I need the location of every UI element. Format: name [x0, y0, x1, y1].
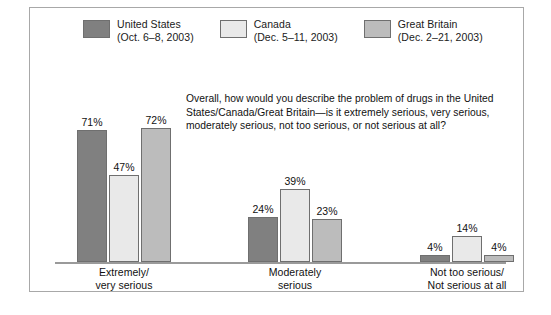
legend-date-great-britain: (Dec. 2–21, 2003): [398, 31, 483, 44]
legend-swatch-united-states: [83, 20, 110, 38]
bar-moderately-canada: [280, 189, 310, 262]
legend-item-united-states: United States (Oct. 6–8, 2003): [83, 18, 194, 43]
legend-swatch-canada: [220, 20, 247, 38]
legend-date-canada: (Dec. 5–11, 2003): [254, 31, 338, 44]
bar-nottoo-united-states: [420, 255, 450, 262]
bar-moderately-great-britain: [312, 219, 342, 262]
category-label-extremely-very-serious: Extremely/ very serious: [49, 266, 199, 291]
category-label-line-1: Moderately: [220, 266, 370, 279]
legend-text-great-britain: Great Britain (Dec. 2–21, 2003): [398, 18, 483, 43]
bar-value-moderately-united-states: 24%: [242, 203, 284, 215]
bar-value-nottoo-united-states: 4%: [414, 241, 456, 253]
bar-nottoo-great-britain: [484, 255, 514, 262]
legend-text-united-states: United States (Oct. 6–8, 2003): [117, 18, 194, 43]
chart-screenshot: United States (Oct. 6–8, 2003) Canada (D…: [0, 0, 551, 315]
bar-value-nottoo-canada: 14%: [446, 222, 488, 234]
bar-extremely-canada: [109, 175, 139, 262]
category-label-line-1: Not too serious/: [392, 266, 542, 279]
legend-label-united-states: United States: [117, 18, 194, 31]
legend-label-canada: Canada: [254, 18, 338, 31]
legend-item-great-britain: Great Britain (Dec. 2–21, 2003): [364, 18, 483, 43]
bar-value-extremely-united-states: 71%: [71, 116, 113, 128]
plot-area: 71% 47% 72% 24% 39% 23% 4% 14% 4%: [30, 60, 523, 263]
bar-value-extremely-great-britain: 72%: [135, 114, 177, 126]
bar-value-nottoo-great-britain: 4%: [478, 241, 520, 253]
legend-label-great-britain: Great Britain: [398, 18, 483, 31]
axis-baseline: [55, 262, 506, 264]
bar-moderately-united-states: [248, 217, 278, 262]
bar-extremely-united-states: [77, 130, 107, 262]
legend-item-canada: Canada (Dec. 5–11, 2003): [220, 18, 338, 43]
category-axis-labels: Extremely/ very serious Moderately serio…: [30, 266, 523, 296]
category-label-line-2: very serious: [49, 279, 199, 292]
category-label-line-1: Extremely/: [49, 266, 199, 279]
category-label-line-2: Not serious at all: [392, 279, 542, 292]
chart-legend: United States (Oct. 6–8, 2003) Canada (D…: [83, 18, 483, 43]
category-label-moderately-serious: Moderately serious: [220, 266, 370, 291]
legend-date-united-states: (Oct. 6–8, 2003): [117, 31, 194, 44]
category-label-line-2: serious: [220, 279, 370, 292]
legend-text-canada: Canada (Dec. 5–11, 2003): [254, 18, 338, 43]
category-label-not-too-serious: Not too serious/ Not serious at all: [392, 266, 542, 291]
bar-value-extremely-canada: 47%: [103, 161, 145, 173]
bar-value-moderately-great-britain: 23%: [306, 205, 348, 217]
bar-value-moderately-canada: 39%: [274, 175, 316, 187]
bar-extremely-great-britain: [141, 128, 171, 262]
legend-swatch-great-britain: [364, 20, 391, 38]
